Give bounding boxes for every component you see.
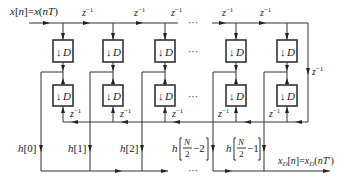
svg-text:h[1]: h[1] <box>68 142 86 154</box>
svg-text:z−1: z−1 <box>69 107 82 119</box>
svg-text:z−1: z−1 <box>259 6 272 18</box>
svg-text:z−1: z−1 <box>221 6 234 18</box>
svg-text:↓: ↓ <box>229 90 235 102</box>
svg-text:↓: ↓ <box>158 90 164 102</box>
svg-text:↓: ↓ <box>106 46 112 58</box>
branch-c1: ↓ D ↓ D h[1] <box>68 23 123 171</box>
svg-text:h[0]: h[0] <box>18 142 36 154</box>
svg-text:↓: ↓ <box>158 46 164 58</box>
svg-text:···: ··· <box>188 46 198 57</box>
svg-text:D: D <box>62 90 71 102</box>
svg-text:···: ··· <box>188 165 198 176</box>
arrow-right-icon <box>259 21 266 25</box>
branch-c0: ↓ D ↓ D h[0] <box>18 23 73 171</box>
svg-text:−1: −1 <box>247 142 259 154</box>
svg-text:D: D <box>164 46 173 58</box>
decimator-box: ↓ D <box>103 85 123 106</box>
svg-text:z−1: z−1 <box>170 6 183 18</box>
svg-text:···: ··· <box>188 91 198 102</box>
svg-text:D: D <box>235 90 244 102</box>
svg-text:↓: ↓ <box>56 46 62 58</box>
decimator-box: ↓ D <box>155 85 175 106</box>
svg-text:↓: ↓ <box>56 90 62 102</box>
svg-text:xD[n]=xD(nT′): xD[n]=xD(nT′) <box>277 155 334 168</box>
svg-text:D: D <box>235 46 244 58</box>
svg-text:2: 2 <box>185 149 190 159</box>
decimator-box: ↓ D <box>53 85 73 106</box>
svg-text:···: ··· <box>188 17 198 28</box>
svg-text:D: D <box>286 46 295 58</box>
arrow-right-icon <box>136 21 143 25</box>
decimator-box: ↓ D <box>277 85 297 106</box>
svg-text:z−1: z−1 <box>133 6 146 18</box>
decimator-box: ↓ D <box>155 40 175 62</box>
svg-text:z−1: z−1 <box>268 107 281 119</box>
svg-text:D: D <box>164 90 173 102</box>
svg-text:h[2]: h[2] <box>120 142 138 154</box>
svg-text:h: h <box>172 142 178 154</box>
arrow-down-icon <box>306 68 310 75</box>
decimator-box: ↓ D <box>103 40 123 62</box>
branch-c3: ↓ D ↓ D h N 2 −2 <box>172 23 246 171</box>
svg-text:2: 2 <box>239 149 244 159</box>
decimator-box: ↓ D <box>53 40 73 62</box>
svg-text:z−1: z−1 <box>119 107 132 119</box>
svg-text:↓: ↓ <box>280 90 286 102</box>
input-label: x[n]=x(nT) <box>9 5 58 18</box>
arrow-right-icon <box>219 21 226 25</box>
svg-text:D: D <box>112 46 121 58</box>
arrow-right-icon <box>43 21 50 25</box>
svg-text:N: N <box>183 137 191 147</box>
svg-text:−2: −2 <box>193 142 205 154</box>
svg-text:D: D <box>286 90 295 102</box>
arrow-right-icon <box>83 21 90 25</box>
svg-text:z−1: z−1 <box>81 6 94 18</box>
svg-text:z−1: z−1 <box>311 65 324 77</box>
branch-c2: ↓ D ↓ D h[2] <box>120 23 175 171</box>
output-sum-line <box>41 169 330 173</box>
svg-text:D: D <box>112 90 121 102</box>
svg-text:h: h <box>226 142 232 154</box>
polyphase-decimator-diagram: x[n]=x(nT) z−1 z−1 z−1 z−1 z−1 z−1 ··· ·… <box>0 0 362 180</box>
svg-text:x[n]=x(nT): x[n]=x(nT) <box>9 5 58 18</box>
svg-text:↓: ↓ <box>106 90 112 102</box>
svg-text:↓: ↓ <box>229 46 235 58</box>
svg-text:↓: ↓ <box>280 46 286 58</box>
output-label: xD[n]=xD(nT′) <box>277 155 334 168</box>
feedback-delay-line: z−1 z−1 z−1 z−1 z−1 <box>63 107 308 124</box>
decimator-box: ↓ D <box>226 40 246 62</box>
decimator-box: ↓ D <box>226 85 246 106</box>
svg-text:z−1: z−1 <box>171 107 184 119</box>
svg-text:N: N <box>237 137 245 147</box>
svg-text:z−1: z−1 <box>217 107 230 119</box>
svg-text:D: D <box>62 46 71 58</box>
decimator-box: ↓ D <box>277 40 297 62</box>
